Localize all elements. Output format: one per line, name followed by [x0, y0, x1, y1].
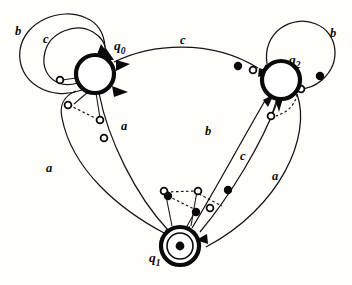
arrowhead-into-q0-lowerright [112, 86, 128, 97]
marker-hollow-q1-c [207, 205, 214, 212]
edge-layer [20, 14, 335, 247]
dashed-q0-a [69, 105, 99, 120]
arrowhead-layer [96, 44, 283, 244]
marker-hollow-q1-b [195, 188, 202, 195]
marker-filled-top-c [234, 62, 241, 69]
edge-q1-to-q0-a [61, 91, 166, 234]
state-layer [76, 55, 300, 265]
marker-hollow-top-c [250, 67, 257, 74]
state-q1-marked-dot [176, 242, 185, 251]
state-q0[interactable] [76, 55, 114, 93]
state-label-q1: q1 [149, 250, 161, 268]
edge-label-b-q0-loop: b [15, 24, 21, 38]
edge-label-a-right: a [272, 169, 278, 183]
edge-q0-to-q1-a [99, 93, 168, 230]
dashed-q1-cluster-1 [166, 191, 196, 192]
edge-q1-to-q2-b [192, 99, 266, 228]
marker-hollow-q0-bottomleft [65, 102, 72, 109]
marker-filled-q2-loop [316, 72, 323, 79]
edge-q2-to-q1-c [200, 100, 278, 232]
edge-label-b-q2-loop: b [330, 26, 336, 40]
state-label-q0: q0 [114, 38, 126, 56]
arrowhead-into-q0-right [116, 60, 130, 71]
edge-label-a-mid: a [121, 119, 127, 133]
edge-label-a-left: a [46, 161, 52, 175]
edge-label-c-q0-loop: c [43, 32, 49, 46]
marker-filled-q1-c [192, 208, 199, 215]
edge-label-b-mid: b [205, 124, 211, 138]
marker-hollow-q2-bottom [268, 113, 275, 120]
edge-label-c-top: c [180, 33, 186, 47]
edge-stub-q0-bottom-1 [74, 92, 88, 104]
marker-filled-q1-a [224, 186, 231, 193]
state-q1[interactable] [161, 227, 199, 265]
edge-stub-q1-1 [166, 196, 172, 226]
marker-hollow-q0-dash-a [97, 117, 104, 124]
edge-q2-to-q1-a [206, 94, 301, 247]
marker-filled-q1-b [164, 192, 171, 199]
dashed-q1-cluster-3 [168, 196, 196, 210]
marker-hollow-q0-left [57, 77, 64, 84]
automaton-canvas: q0 q1 q2 b c c b a a b c a [0, 0, 352, 285]
marker-hollow-q0-dash-b [101, 135, 108, 142]
state-q0-ring[interactable] [76, 55, 114, 93]
automaton-diagram: q0 q1 q2 b c c b a a b c a [0, 0, 352, 285]
edge-label-c-right: c [240, 149, 246, 163]
